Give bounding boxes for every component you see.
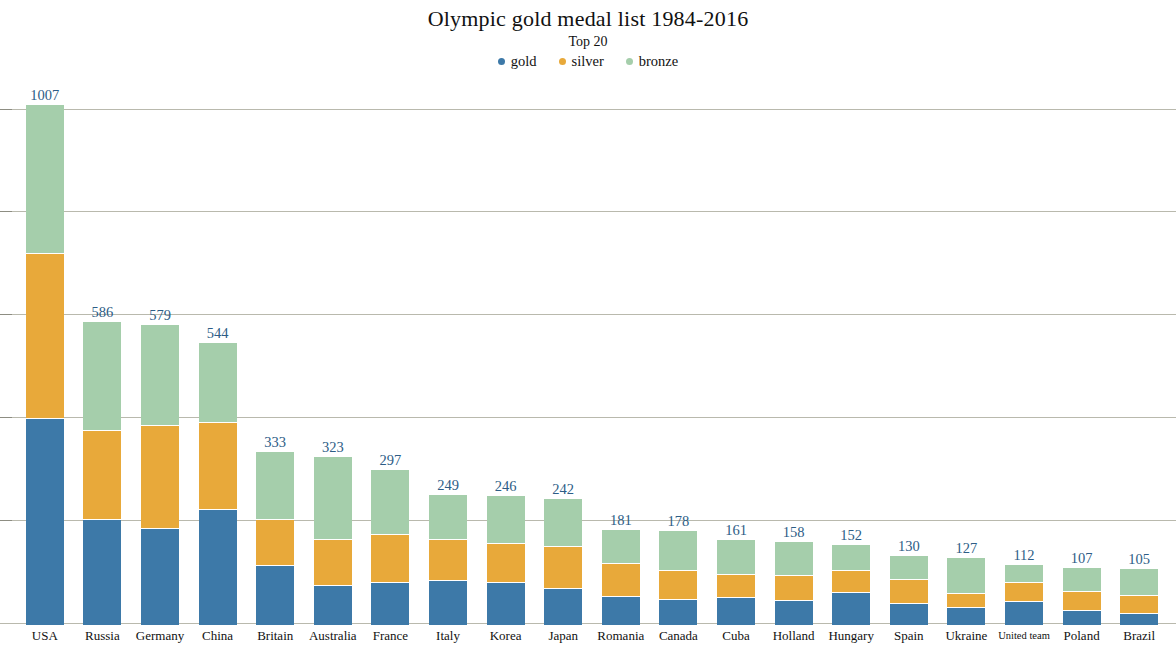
stacked-bar[interactable] xyxy=(1120,569,1158,623)
bar-segment-silver[interactable] xyxy=(602,563,640,596)
bar-segment-gold[interactable] xyxy=(602,596,640,625)
bar-segment-gold[interactable] xyxy=(487,582,525,625)
bar-segment-bronze[interactable] xyxy=(890,556,928,579)
stacked-bar[interactable] xyxy=(199,343,237,623)
bar-group-australia[interactable]: 323Australia xyxy=(314,457,352,623)
bar-group-hungary[interactable]: 152Hungary xyxy=(832,545,870,623)
bar-group-usa[interactable]: 1007USA xyxy=(26,105,64,623)
bar-segment-bronze[interactable] xyxy=(487,496,525,543)
bar-group-brazil[interactable]: 105Brazil xyxy=(1120,569,1158,623)
bar-segment-bronze[interactable] xyxy=(544,499,582,547)
bar-segment-gold[interactable] xyxy=(429,580,467,625)
bar-segment-gold[interactable] xyxy=(890,603,928,625)
bar-group-cuba[interactable]: 161Cuba xyxy=(717,540,755,623)
stacked-bar[interactable] xyxy=(544,499,582,623)
bar-group-holland[interactable]: 158Holland xyxy=(775,542,813,623)
bar-segment-bronze[interactable] xyxy=(314,457,352,539)
bar-segment-bronze[interactable] xyxy=(1063,568,1101,591)
bar-segment-gold[interactable] xyxy=(717,597,755,625)
bar-group-germany[interactable]: 579Germany xyxy=(141,325,179,623)
bar-segment-bronze[interactable] xyxy=(717,540,755,573)
stacked-bar[interactable] xyxy=(832,545,870,623)
bar-segment-bronze[interactable] xyxy=(775,542,813,575)
bar-group-italy[interactable]: 249Italy xyxy=(429,495,467,623)
bar-segment-bronze[interactable] xyxy=(83,322,121,430)
bar-segment-silver[interactable] xyxy=(659,570,697,600)
bar-segment-bronze[interactable] xyxy=(26,105,64,253)
stacked-bar[interactable] xyxy=(487,496,525,623)
bar-segment-silver[interactable] xyxy=(141,425,179,528)
stacked-bar[interactable] xyxy=(314,457,352,623)
stacked-bar[interactable] xyxy=(775,542,813,623)
stacked-bar[interactable] xyxy=(659,531,697,623)
bar-group-poland[interactable]: 107Poland xyxy=(1063,568,1101,623)
bar-segment-gold[interactable] xyxy=(947,607,985,625)
bar-group-russia[interactable]: 586Russia xyxy=(83,322,121,623)
bar-segment-silver[interactable] xyxy=(717,574,755,598)
bar-segment-gold[interactable] xyxy=(26,418,64,625)
bar-segment-silver[interactable] xyxy=(83,430,121,519)
bar-group-ukraine[interactable]: 127Ukraine xyxy=(947,558,985,623)
bar-segment-bronze[interactable] xyxy=(256,452,294,519)
bar-segment-bronze[interactable] xyxy=(602,530,640,563)
bar-group-united-team[interactable]: 112United team xyxy=(1005,565,1043,623)
bar-segment-bronze[interactable] xyxy=(659,531,697,569)
bar-segment-silver[interactable] xyxy=(1120,595,1158,612)
bar-segment-gold[interactable] xyxy=(199,509,237,625)
bar-segment-silver[interactable] xyxy=(1063,591,1101,610)
bar-segment-silver[interactable] xyxy=(371,534,409,582)
bar-segment-gold[interactable] xyxy=(256,565,294,625)
bar-segment-silver[interactable] xyxy=(544,546,582,588)
bar-segment-bronze[interactable] xyxy=(947,558,985,593)
bar-group-romania[interactable]: 181Romania xyxy=(602,530,640,623)
bar-segment-silver[interactable] xyxy=(1005,582,1043,601)
bar-segment-bronze[interactable] xyxy=(371,470,409,534)
bar-segment-bronze[interactable] xyxy=(141,325,179,425)
bar-segment-silver[interactable] xyxy=(199,422,237,509)
bar-group-japan[interactable]: 242Japan xyxy=(544,499,582,623)
stacked-bar[interactable] xyxy=(1005,565,1043,623)
bar-segment-gold[interactable] xyxy=(1005,601,1043,625)
bar-segment-silver[interactable] xyxy=(487,543,525,582)
stacked-bar[interactable] xyxy=(947,558,985,623)
bar-segment-bronze[interactable] xyxy=(199,343,237,422)
stacked-bar[interactable] xyxy=(890,556,928,623)
bar-segment-silver[interactable] xyxy=(832,570,870,593)
bar-segment-gold[interactable] xyxy=(544,588,582,625)
stacked-bar[interactable] xyxy=(602,530,640,623)
bar-segment-gold[interactable] xyxy=(659,599,697,625)
stacked-bar[interactable] xyxy=(83,322,121,623)
bar-segment-gold[interactable] xyxy=(371,582,409,625)
stacked-bar[interactable] xyxy=(1063,568,1101,623)
stacked-bar[interactable] xyxy=(429,495,467,623)
bar-group-france[interactable]: 297France xyxy=(371,470,409,623)
bar-segment-gold[interactable] xyxy=(1063,610,1101,625)
bar-segment-silver[interactable] xyxy=(890,579,928,603)
bar-segment-silver[interactable] xyxy=(775,575,813,600)
bar-group-korea[interactable]: 246Korea xyxy=(487,496,525,623)
bar-segment-bronze[interactable] xyxy=(1005,565,1043,581)
bar-segment-silver[interactable] xyxy=(26,253,64,419)
bar-segment-gold[interactable] xyxy=(141,528,179,625)
bar-group-britain[interactable]: 333Britain xyxy=(256,452,294,623)
stacked-bar[interactable] xyxy=(26,105,64,623)
bar-group-canada[interactable]: 178Canada xyxy=(659,531,697,623)
bar-group-china[interactable]: 544China xyxy=(199,343,237,623)
bar-segment-bronze[interactable] xyxy=(429,495,467,539)
bar-segment-silver[interactable] xyxy=(314,539,352,585)
bar-segment-bronze[interactable] xyxy=(832,545,870,570)
bar-segment-gold[interactable] xyxy=(1120,613,1158,625)
bar-segment-silver[interactable] xyxy=(429,539,467,580)
bar-segment-silver[interactable] xyxy=(947,593,985,607)
bar-segment-gold[interactable] xyxy=(314,585,352,625)
stacked-bar[interactable] xyxy=(256,452,294,623)
bar-segment-bronze[interactable] xyxy=(1120,569,1158,595)
stacked-bar[interactable] xyxy=(141,325,179,623)
bar-segment-gold[interactable] xyxy=(775,600,813,625)
bar-segment-gold[interactable] xyxy=(83,519,121,625)
bar-segment-gold[interactable] xyxy=(832,592,870,625)
bar-segment-silver[interactable] xyxy=(256,519,294,566)
stacked-bar[interactable] xyxy=(371,470,409,623)
stacked-bar[interactable] xyxy=(717,540,755,623)
bar-group-spain[interactable]: 130Spain xyxy=(890,556,928,623)
